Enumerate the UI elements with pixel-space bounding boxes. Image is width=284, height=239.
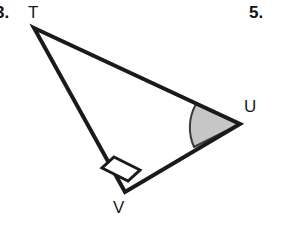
vertex-label-t: T (28, 4, 38, 21)
geometry-problem-figure: 3. 5. T U V (0, 0, 284, 239)
triangle-tuv-diagram (0, 0, 284, 239)
vertex-label-v: V (113, 199, 124, 216)
vertex-label-u: U (244, 98, 256, 115)
